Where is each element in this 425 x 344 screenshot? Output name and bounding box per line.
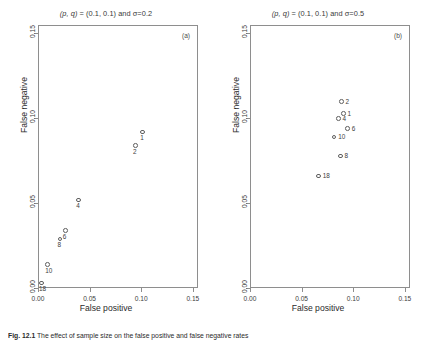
chart-panel-b: (p, q) = (0.1, 0.1) and σ=0.5 (b) 214610…	[212, 0, 424, 322]
data-point-label: 2	[133, 149, 137, 155]
panel-a-corner-label: (a)	[182, 32, 190, 39]
y-axis-tick-label: 0.10	[241, 107, 248, 127]
figure-caption: Fig. 12.1 The effect of sample size on t…	[8, 331, 417, 344]
y-axis-tick-label: 0.05	[29, 192, 36, 212]
y-axis-tick-label: 0.15	[29, 22, 36, 42]
data-point-label: 10	[45, 268, 52, 274]
panel-b-ylabel: False negative	[231, 25, 241, 185]
chart-panel-a: (p, q) = (0.1, 0.1) and σ=0.2 (a) 124681…	[0, 0, 212, 322]
panel-b-corner-label: (b)	[394, 32, 402, 39]
x-axis-tick	[302, 288, 303, 292]
x-axis-tick-label: 0.05	[295, 295, 308, 302]
panel-b-xlabel: False positive	[212, 303, 424, 313]
panel-a-title: (p, q) = (0.1, 0.1) and σ=0.2	[0, 9, 212, 18]
x-axis-tick-label: 0.10	[135, 295, 148, 302]
data-point-label: 6	[63, 234, 67, 240]
x-axis-tick	[141, 288, 142, 292]
panel-b-title-rest: = (0.1, 0.1) and σ=0.5	[289, 9, 364, 18]
data-point-label: 6	[352, 126, 356, 132]
data-point-label: 2	[346, 99, 350, 105]
caption-text: The effect of sample size on the false p…	[37, 332, 248, 339]
caption-lead: Fig. 12.1	[8, 332, 35, 339]
y-axis-tick-label: 0.10	[29, 107, 36, 127]
data-point-label: 1	[348, 111, 352, 117]
panel-a-xlabel: False positive	[0, 303, 212, 313]
x-axis-tick	[353, 288, 354, 292]
point-marker-icon	[339, 99, 344, 104]
x-axis-tick	[90, 288, 91, 292]
panel-b-title: (p, q) = (0.1, 0.1) and σ=0.5	[212, 9, 424, 18]
panel-b-plot-area: (b) 214610818	[250, 25, 410, 288]
panel-b-title-params: (p, q)	[272, 9, 290, 18]
y-axis-tick-label: 0.00	[241, 277, 248, 297]
data-point-label: 8	[344, 153, 348, 159]
x-axis-tick	[250, 288, 251, 292]
data-point-label: 18	[39, 286, 46, 292]
panel-a-ylabel: False negative	[19, 25, 29, 185]
data-point-label: 4	[76, 203, 80, 209]
data-point-label: 18	[323, 173, 330, 179]
y-axis-tick-label: 0.15	[241, 22, 248, 42]
data-point-label: 1	[140, 135, 144, 141]
y-axis-tick-label: 0.00	[29, 277, 36, 297]
x-axis-tick-label: 0.10	[347, 295, 360, 302]
x-axis-tick-label: 0.15	[186, 295, 199, 302]
point-marker-icon	[338, 154, 343, 159]
panel-a-title-params: (p, q)	[60, 9, 78, 18]
data-point-label: 8	[58, 242, 62, 248]
x-axis-tick-label: 0.15	[398, 295, 411, 302]
data-point-label: 10	[338, 134, 345, 140]
point-marker-icon	[336, 116, 341, 121]
x-axis-tick	[38, 288, 39, 292]
panel-a-title-rest: = (0.1, 0.1) and σ=0.2	[77, 9, 152, 18]
data-point-label: 4	[342, 116, 346, 122]
x-axis-tick-label: 0.05	[83, 295, 96, 302]
figure-container: (p, q) = (0.1, 0.1) and σ=0.2 (a) 124681…	[0, 0, 425, 344]
x-axis-tick	[405, 288, 406, 292]
point-marker-icon	[45, 262, 50, 267]
x-axis-tick	[193, 288, 194, 292]
point-marker-icon	[345, 126, 350, 131]
y-axis-tick-label: 0.05	[241, 192, 248, 212]
point-marker-icon	[332, 135, 337, 140]
point-marker-icon	[316, 174, 321, 179]
panel-a-plot-area: (a) 124681018	[38, 25, 198, 288]
